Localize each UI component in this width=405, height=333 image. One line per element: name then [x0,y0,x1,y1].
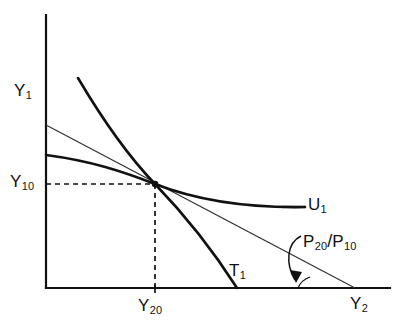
y-axis-label: Y1 [14,82,32,101]
y10-label-sub: 10 [22,180,35,192]
price-ratio-numerator-base: P [303,232,315,251]
guide-lines-group [46,184,155,293]
y-axis-label-base: Y [14,81,26,100]
equilibrium-point [152,181,158,187]
y20-label: Y20 [138,297,162,316]
price-ratio-label: P20/P10 [303,232,357,252]
indifference-curve-label: U1 [308,196,327,215]
y-axis-label-sub: 1 [26,89,32,101]
figure-canvas [0,0,405,333]
x-axis-label-base: Y [350,294,362,313]
price-ratio-denominator-sub: 10 [344,240,357,252]
y10-label-base: Y [10,172,22,191]
u1-label-sub: 1 [321,203,327,215]
price-ratio-denominator-base: P [332,232,344,251]
x-axis-label-sub: 2 [362,302,368,314]
t1-label-base: T [229,261,240,280]
t1-label-sub: 1 [240,269,246,281]
indifference-curve-u1 [46,155,305,207]
y20-label-sub: 20 [150,304,163,316]
economics-figure: Y1 Y10 Y20 Y2 U1 T1 P20/P10 [0,0,405,333]
transformation-curve-label: T1 [229,262,246,281]
price-ratio-numerator-sub: 20 [315,240,328,252]
u1-label-base: U [308,195,321,214]
annotation-arrow-head [290,270,302,283]
x-axis-label: Y2 [350,295,368,314]
y10-label: Y10 [10,173,34,192]
y20-label-base: Y [138,296,150,315]
angle-arc [298,277,310,288]
